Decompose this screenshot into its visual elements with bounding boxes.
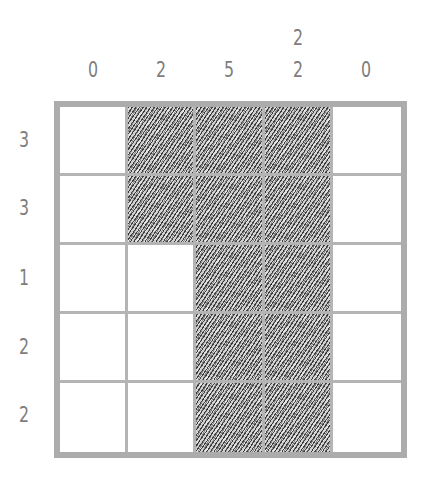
grid-cell-r5-c3-filled[interactable] [196,383,264,452]
nonogram-board [54,101,407,458]
grid-cell-r4-c1-empty[interactable] [60,314,128,383]
grid-cell-r1-c4-filled[interactable] [265,107,333,176]
grid-cell-r3-c2-empty[interactable] [128,245,196,314]
grid-cell-r5-c5-empty[interactable] [333,383,401,452]
cell-grid [60,107,401,452]
grid-cell-r2-c4-filled[interactable] [265,176,333,245]
row-clue-3: 1 [13,267,35,289]
grid-cell-r4-c5-empty[interactable] [333,314,401,383]
grid-cell-r1-c2-filled[interactable] [128,107,196,176]
grid-cell-r1-c3-filled[interactable] [196,107,264,176]
grid-cell-r1-c5-empty[interactable] [333,107,401,176]
column-clue-5: 0 [355,59,377,81]
column-clue-4-second: 2 [287,59,309,81]
grid-cell-r5-c2-empty[interactable] [128,383,196,452]
grid-cell-r3-c1-empty[interactable] [60,245,128,314]
row-clue-1: 3 [13,129,35,151]
row-clue-5: 2 [13,404,35,426]
grid-cell-r1-c1-empty[interactable] [60,107,128,176]
grid-cell-r4-c2-empty[interactable] [128,314,196,383]
column-clue-3: 5 [218,59,240,81]
grid-cell-r4-c4-filled[interactable] [265,314,333,383]
column-clue-2: 2 [150,59,172,81]
row-clue-2: 3 [13,197,35,219]
grid-cell-r3-c4-filled[interactable] [265,245,333,314]
grid-cell-r4-c3-filled[interactable] [196,314,264,383]
grid-cell-r5-c4-filled[interactable] [265,383,333,452]
column-clue-4-first: 2 [287,27,309,49]
row-clue-4: 2 [13,336,35,358]
grid-cell-r2-c1-empty[interactable] [60,176,128,245]
grid-cell-r2-c2-filled[interactable] [128,176,196,245]
grid-cell-r5-c1-empty[interactable] [60,383,128,452]
grid-cell-r2-c3-filled[interactable] [196,176,264,245]
grid-cell-r3-c3-filled[interactable] [196,245,264,314]
column-clue-1: 0 [82,59,104,81]
grid-cell-r3-c5-empty[interactable] [333,245,401,314]
grid-cell-r2-c5-empty[interactable] [333,176,401,245]
